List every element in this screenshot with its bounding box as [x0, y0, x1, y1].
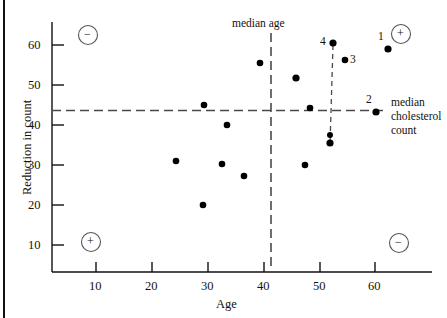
y-tick-label-50: 50	[28, 79, 41, 92]
data-point	[224, 122, 231, 129]
median-age-label: median age	[232, 18, 285, 30]
data-point-3	[342, 57, 349, 64]
data-point	[327, 132, 333, 138]
median-cholesterol-label-line3: count	[391, 123, 417, 137]
data-point	[200, 202, 207, 209]
x-tick-label-40: 40	[257, 280, 270, 293]
data-point	[173, 158, 180, 165]
quadrant-bottom-right-sign: −	[395, 236, 402, 248]
point-label-1: 1	[378, 31, 384, 43]
y-tick-label-60: 60	[28, 39, 41, 52]
x-tick-label-50: 50	[313, 280, 326, 293]
x-tick-label-10: 10	[89, 280, 102, 293]
data-point	[302, 162, 309, 169]
x-tick-label-20: 20	[145, 280, 158, 293]
quadrant-top-left-sign: −	[84, 28, 91, 40]
data-point	[307, 105, 314, 112]
y-axis-title: Reduction in count	[20, 100, 35, 195]
data-point	[219, 161, 226, 168]
x-tick-label-30: 30	[201, 280, 214, 293]
point-label-4: 4	[320, 36, 326, 48]
quadrant-top-right-sign: +	[397, 27, 404, 39]
y-tick-label-10: 10	[28, 239, 41, 252]
point-label-3: 3	[350, 54, 356, 66]
x-tick-label-60: 60	[368, 280, 381, 293]
quadrant-bottom-left-sign: +	[87, 235, 94, 247]
median-cholesterol-label-line2: cholesterol	[391, 109, 441, 123]
data-point	[241, 173, 248, 180]
data-point	[201, 102, 208, 109]
scatter-plot-figure: 60 50 40 30 20 10 10 20 30 40 50 60 Age …	[0, 0, 447, 318]
data-point-1	[384, 45, 391, 52]
plot-canvas	[0, 0, 447, 318]
data-point	[292, 74, 299, 81]
data-point-2	[372, 108, 379, 115]
data-point-4	[329, 39, 336, 46]
data-point	[326, 139, 333, 146]
x-axis-title: Age	[216, 298, 237, 311]
y-tick-label-20: 20	[28, 199, 41, 212]
point-connector-line	[330, 45, 333, 145]
median-cholesterol-label-line1: median	[391, 95, 425, 109]
data-point	[257, 60, 264, 67]
point-label-2: 2	[366, 94, 372, 106]
